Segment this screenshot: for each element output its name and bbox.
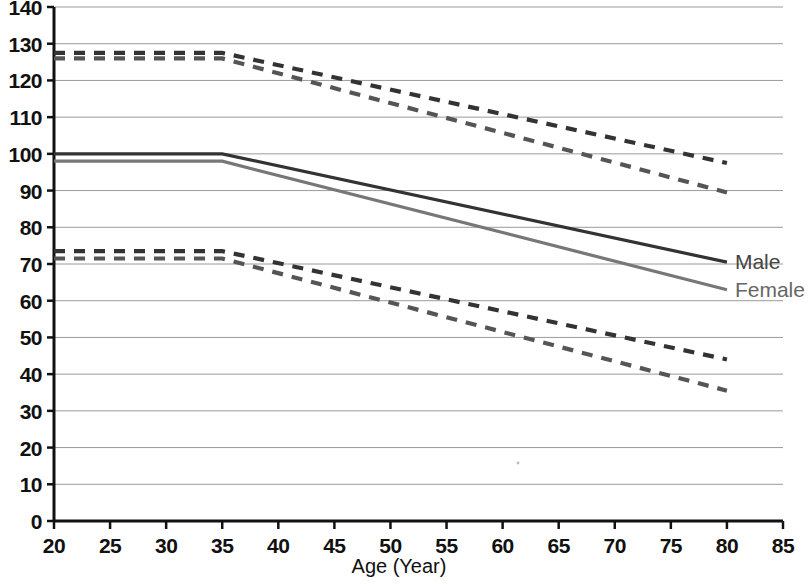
y-axis-tick-label: 60 — [0, 291, 42, 312]
stray-mark-icon — [517, 462, 520, 465]
series-line — [54, 251, 727, 359]
y-axis-tick-label: 120 — [0, 70, 42, 91]
x-axis-tick-label: 25 — [80, 535, 140, 556]
x-axis-tick-label: 70 — [585, 535, 645, 556]
gridlines — [47, 7, 783, 521]
y-axis-tick-label: 110 — [0, 107, 42, 128]
x-axis-tick-label: 55 — [417, 535, 477, 556]
y-axis-tick-label: 40 — [0, 364, 42, 385]
series-line — [54, 58, 727, 192]
x-axis-tick-label: 20 — [24, 535, 84, 556]
y-axis-tick-label: 130 — [0, 34, 42, 55]
y-axis-tick-label: 30 — [0, 401, 42, 422]
series-label-female: Female — [735, 279, 805, 300]
series-line — [54, 154, 727, 262]
x-axis-tick-label: 30 — [136, 535, 196, 556]
series-label-male: Male — [735, 251, 781, 272]
x-axis-tick-label: 85 — [753, 535, 809, 556]
x-axis-tick-label: 65 — [529, 535, 589, 556]
x-axis-tick-label: 45 — [304, 535, 364, 556]
x-axis-tick-label: 75 — [641, 535, 701, 556]
y-axis-tick-label: 140 — [0, 0, 42, 18]
x-axis-title: Age (Year) — [0, 556, 798, 576]
series-line — [54, 258, 727, 390]
x-axis-tick-label: 35 — [192, 535, 252, 556]
y-axis-tick-label: 70 — [0, 254, 42, 275]
y-axis-tick-label: 90 — [0, 181, 42, 202]
x-axis-tick-label: 40 — [248, 535, 308, 556]
data-series — [54, 53, 727, 391]
y-axis-tick-label: 100 — [0, 144, 42, 165]
x-axis-tick-label: 80 — [697, 535, 757, 556]
x-axis-tick-label: 50 — [360, 535, 420, 556]
y-axis-tick-label: 0 — [0, 511, 42, 532]
y-axis-tick-label: 50 — [0, 327, 42, 348]
y-axis-tick-label: 20 — [0, 438, 42, 459]
y-axis-tick-label: 80 — [0, 217, 42, 238]
x-axis-tick-label: 60 — [473, 535, 533, 556]
series-line — [54, 161, 727, 290]
y-axis-tick-label: 10 — [0, 474, 42, 495]
series-line — [54, 53, 727, 163]
